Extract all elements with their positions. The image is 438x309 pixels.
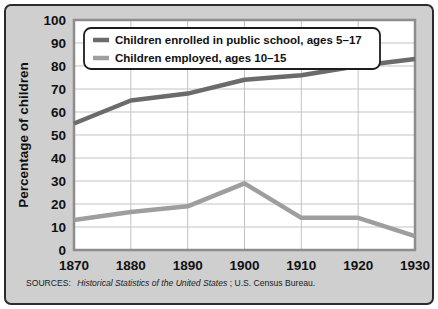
source-note: SOURCES: Historical Statistics of the Un… (26, 278, 315, 288)
x-tick-1930: 1930 (400, 258, 430, 273)
y-tick-60: 60 (51, 105, 66, 120)
y-tick-30: 30 (51, 174, 66, 189)
chart-figure-card: 0102030405060708090100 18701880189019001… (4, 4, 434, 305)
legend-label-school: Children enrolled in public school, ages… (115, 34, 362, 46)
y-tick-40: 40 (51, 151, 66, 166)
y-tick-80: 80 (51, 59, 66, 74)
y-tick-20: 20 (51, 197, 66, 212)
y-tick-10: 10 (51, 220, 66, 235)
y-axis-title: Percentage of children (16, 62, 31, 208)
source-title: Historical Statistics of the United Stat… (77, 278, 228, 288)
x-tick-1910: 1910 (286, 258, 316, 273)
y-tick-70: 70 (51, 82, 66, 97)
chart-legend: Children enrolled in public school, ages… (84, 28, 380, 69)
y-tick-50: 50 (51, 128, 66, 143)
x-tick-1920: 1920 (343, 258, 373, 273)
x-tick-1880: 1880 (116, 258, 146, 273)
legend-label-employed: Children employed, ages 10–15 (115, 52, 287, 64)
source-suffix: ; U.S. Census Bureau. (230, 278, 316, 288)
x-tick-1890: 1890 (173, 258, 203, 273)
y-tick-0: 0 (58, 243, 66, 258)
source-prefix: SOURCES: (26, 278, 71, 288)
x-tick-1870: 1870 (59, 258, 89, 273)
x-axis-tick-labels: 1870188018901900191019201930 (59, 258, 430, 273)
y-tick-100: 100 (43, 13, 66, 28)
line-chart: 0102030405060708090100 18701880189019001… (6, 6, 432, 303)
y-tick-90: 90 (51, 36, 66, 51)
y-axis-tick-labels: 0102030405060708090100 (43, 13, 66, 258)
x-tick-1900: 1900 (229, 258, 259, 273)
